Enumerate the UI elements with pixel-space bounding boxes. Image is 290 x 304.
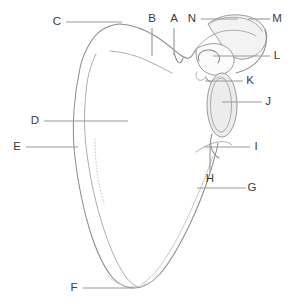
label-c: C bbox=[53, 15, 61, 27]
label-f: F bbox=[70, 281, 77, 293]
anatomy-diagram: C B A N M L K J I H G D E F bbox=[0, 0, 290, 304]
label-b: B bbox=[148, 12, 156, 24]
label-j: J bbox=[265, 95, 271, 107]
label-i: I bbox=[254, 140, 257, 152]
label-a: A bbox=[170, 12, 178, 24]
scapula-superior-border bbox=[120, 24, 196, 58]
acromion-coracoid-group bbox=[196, 15, 267, 83]
label-k: K bbox=[246, 74, 254, 86]
label-h: H bbox=[206, 172, 214, 184]
scapula-inferior-angle-arc bbox=[108, 276, 155, 287]
scapula-illustration: C B A N M L K J I H G D E F bbox=[0, 0, 290, 304]
scapula-inner-ridge-dotted bbox=[95, 139, 104, 203]
label-l: L bbox=[274, 49, 281, 61]
label-g: G bbox=[248, 181, 257, 193]
glenoid-cavity-group bbox=[196, 73, 237, 158]
coracoid-process bbox=[196, 44, 234, 76]
scapula-body-group bbox=[73, 24, 218, 288]
scapula-medial-inner-line bbox=[85, 54, 139, 287]
label-e: E bbox=[13, 140, 21, 152]
scapula-spine-ridge bbox=[110, 51, 172, 73]
coracoid-inferior-tip bbox=[196, 72, 206, 80]
label-m: M bbox=[272, 12, 282, 24]
scapula-lateral-border-inner bbox=[142, 156, 213, 284]
label-d: D bbox=[31, 114, 39, 126]
glenoid-cavity-outer bbox=[207, 73, 237, 137]
label-n: N bbox=[188, 12, 196, 24]
